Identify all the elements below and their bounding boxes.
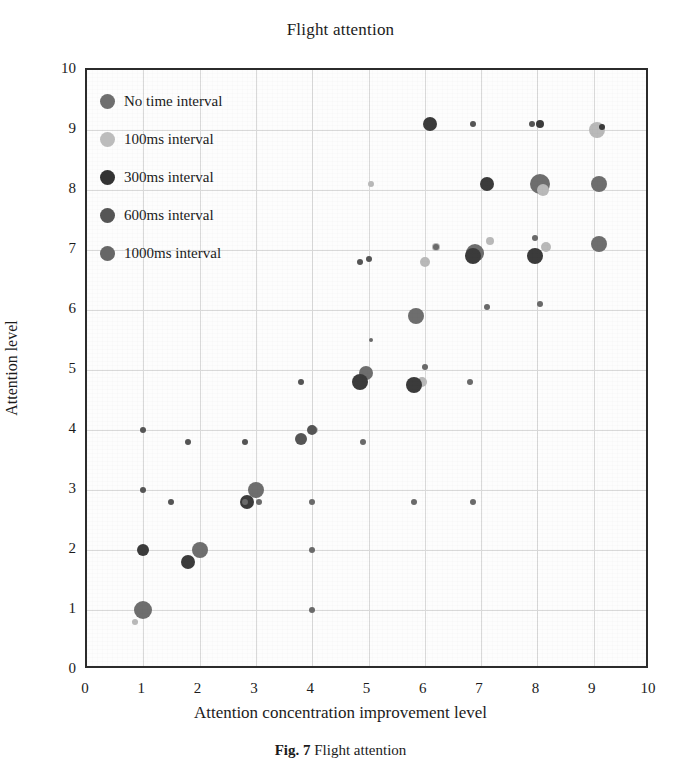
data-point: [360, 439, 366, 445]
data-point: [467, 379, 473, 385]
x-tick-6: 6: [419, 680, 427, 697]
legend-item-1[interactable]: 100ms interval: [100, 120, 300, 158]
data-point: [168, 499, 174, 505]
data-point: [591, 236, 607, 252]
chart-title: Flight attention: [0, 20, 681, 40]
gridline-horizontal: [87, 430, 646, 431]
legend-item-0[interactable]: No time interval: [100, 82, 300, 120]
data-point: [406, 377, 422, 393]
data-point: [134, 601, 152, 619]
data-point: [541, 242, 551, 252]
legend-item-2[interactable]: 300ms interval: [100, 158, 300, 196]
x-tick-9: 9: [588, 680, 596, 697]
y-tick-4: 4: [44, 420, 76, 437]
figure-caption-text: Flight attention: [314, 742, 406, 758]
x-tick-0: 0: [81, 680, 89, 697]
data-point: [242, 499, 248, 505]
gridline-horizontal: [87, 610, 646, 611]
gridline-vertical: [594, 70, 595, 666]
data-point: [422, 364, 428, 370]
y-tick-9: 9: [44, 120, 76, 137]
gridline-horizontal: [87, 550, 646, 551]
data-point: [484, 304, 490, 310]
legend-label: 300ms interval: [124, 169, 214, 186]
data-point: [368, 181, 374, 187]
data-point: [537, 301, 543, 307]
data-point: [366, 256, 372, 262]
data-point: [137, 544, 149, 556]
data-point: [352, 374, 368, 390]
data-point: [532, 235, 538, 241]
legend-label: 600ms interval: [124, 207, 214, 224]
x-tick-5: 5: [363, 680, 371, 697]
x-tick-4: 4: [306, 680, 314, 697]
y-tick-3: 3: [44, 480, 76, 497]
legend-marker-icon: [100, 132, 115, 147]
data-point: [357, 259, 363, 265]
y-tick-2: 2: [44, 540, 76, 557]
data-point: [470, 499, 476, 505]
figure-container: Flight attention 012345678910 0123456789…: [0, 0, 681, 764]
data-point: [591, 176, 607, 192]
data-point: [537, 184, 549, 196]
data-point: [295, 433, 307, 445]
legend-label: No time interval: [124, 93, 222, 110]
x-tick-1: 1: [138, 680, 146, 697]
data-point: [307, 425, 317, 435]
gridline-horizontal: [87, 490, 646, 491]
x-tick-8: 8: [532, 680, 540, 697]
data-point: [423, 117, 437, 131]
legend-marker-icon: [100, 94, 115, 109]
data-point: [309, 547, 315, 553]
y-tick-0: 0: [44, 660, 76, 677]
data-point: [140, 487, 146, 493]
legend-item-3[interactable]: 600ms interval: [100, 196, 300, 234]
y-tick-6: 6: [44, 300, 76, 317]
data-point: [181, 555, 195, 569]
legend-marker-icon: [100, 170, 115, 185]
data-point: [408, 308, 424, 324]
data-point: [309, 607, 315, 613]
data-point: [140, 427, 146, 433]
data-point: [420, 257, 430, 267]
y-tick-7: 7: [44, 240, 76, 257]
data-point: [369, 338, 373, 342]
gridline-vertical: [481, 70, 482, 666]
y-tick-1: 1: [44, 600, 76, 617]
data-point: [433, 244, 439, 250]
x-tick-2: 2: [194, 680, 202, 697]
data-point: [242, 439, 248, 445]
data-point: [185, 439, 191, 445]
legend-label: 1000ms interval: [124, 245, 221, 262]
data-point: [536, 120, 544, 128]
x-tick-7: 7: [475, 680, 483, 697]
data-point: [599, 124, 605, 130]
figure-number: Fig. 7: [275, 742, 311, 758]
legend-marker-icon: [100, 208, 115, 223]
gridline-vertical: [537, 70, 538, 666]
data-point: [486, 237, 494, 245]
data-point: [527, 248, 543, 264]
data-point: [470, 121, 476, 127]
data-point: [480, 177, 494, 191]
data-point: [256, 499, 262, 505]
legend-marker-icon: [100, 246, 115, 261]
x-tick-3: 3: [250, 680, 258, 697]
data-point: [529, 121, 535, 127]
gridline-horizontal: [87, 310, 646, 311]
x-tick-10: 10: [641, 680, 656, 697]
figure-caption: Fig. 7 Flight attention: [0, 742, 681, 764]
data-point: [298, 379, 304, 385]
data-point: [309, 499, 315, 505]
y-tick-8: 8: [44, 180, 76, 197]
data-point: [411, 499, 417, 505]
gridline-vertical: [312, 70, 313, 666]
y-tick-10: 10: [44, 60, 76, 77]
chart-legend: No time interval100ms interval300ms inte…: [100, 82, 300, 272]
data-point: [192, 542, 208, 558]
y-axis-label: Attention level: [3, 320, 21, 416]
data-point: [132, 619, 138, 625]
legend-item-4[interactable]: 1000ms interval: [100, 234, 300, 272]
data-point: [465, 248, 481, 264]
legend-label: 100ms interval: [124, 131, 214, 148]
